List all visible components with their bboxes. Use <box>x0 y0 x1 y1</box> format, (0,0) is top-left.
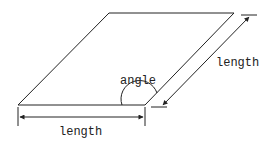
parallelogram-shape <box>18 13 234 105</box>
bottom-length-label: length <box>59 125 102 139</box>
parallelogram-diagram: angle length length <box>0 0 269 144</box>
angle-label: angle <box>120 74 156 88</box>
side-length-label: length <box>216 56 259 70</box>
